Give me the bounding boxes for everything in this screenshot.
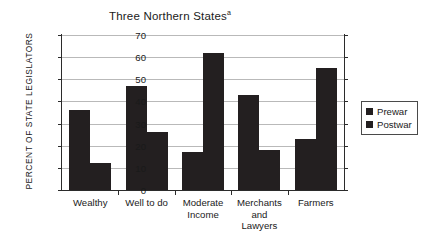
y-axis-title: PERCENT OF STATE LEGISLATORS [24, 26, 34, 196]
category-label: MerchantsandLawyers [231, 197, 287, 232]
chart-title-text: Three Northern States [109, 10, 227, 22]
legend-label: Postwar [377, 119, 412, 130]
category-separator [175, 190, 176, 195]
category-label-line: and [231, 209, 287, 221]
chart-title-superscript: a [227, 9, 231, 16]
category-label-line: Merchants [231, 197, 287, 209]
y-axis-tick-label: 50 [124, 74, 146, 85]
category-separator [288, 190, 289, 195]
bar-prewar [182, 152, 203, 190]
bar-group [69, 35, 111, 190]
legend-item[interactable]: Postwar [366, 118, 412, 131]
bar-group [238, 35, 280, 190]
y-axis-tick-label: 30 [124, 118, 146, 129]
y-axis-tick-label: 40 [124, 96, 146, 107]
y-axis-tick-right [344, 57, 348, 58]
category-separator [118, 190, 119, 195]
category-label: Wealthy [62, 197, 118, 209]
category-label-line: Moderate [175, 197, 231, 209]
category-label-line: Farmers [288, 197, 344, 209]
bar-postwar [147, 132, 168, 190]
y-axis-tick-right [344, 79, 348, 80]
category-separator [231, 190, 232, 195]
bar-chart-figure: Three Northern Statesa PERCENT OF STATE … [0, 0, 436, 250]
bar-group [295, 35, 337, 190]
legend-swatch-icon [366, 108, 373, 115]
y-axis-tick [58, 190, 62, 191]
category-label: Well to do [118, 197, 174, 209]
bar-prewar [238, 95, 259, 190]
bar-postwar [316, 68, 337, 190]
category-label-line: Wealthy [62, 197, 118, 209]
x-axis-baseline [61, 190, 345, 191]
y-axis-tick-right [344, 146, 348, 147]
bar-postwar [90, 163, 111, 190]
y-axis-tick-label: 20 [124, 140, 146, 151]
category-label: Farmers [288, 197, 344, 209]
category-label-line: Well to do [118, 197, 174, 209]
plot-area [62, 35, 344, 190]
legend-item[interactable]: Prewar [366, 105, 412, 118]
y-axis-tick-label: 60 [124, 52, 146, 63]
category-label-line: Lawyers [231, 220, 287, 232]
bar-series-container [62, 35, 344, 190]
bar-prewar [295, 139, 316, 190]
chart-title: Three Northern Statesa [0, 9, 340, 22]
bar-group [182, 35, 224, 190]
legend-swatch-icon [366, 121, 373, 128]
bar-postwar [203, 53, 224, 190]
y-axis-tick-right [344, 101, 348, 102]
y-axis-tick-right [344, 190, 348, 191]
y-axis-tick-label: 0 [124, 185, 146, 196]
y-axis-tick-right [344, 168, 348, 169]
category-label-line: Income [175, 209, 231, 221]
y-axis-tick-label: 10 [124, 162, 146, 173]
y-axis-tick-right [344, 35, 348, 36]
y-axis-tick-right [344, 124, 348, 125]
bar-postwar [259, 150, 280, 190]
category-label: ModerateIncome [175, 197, 231, 220]
legend-label: Prewar [377, 106, 407, 117]
chart-legend: PrewarPostwar [361, 101, 418, 135]
y-axis-tick-label: 70 [124, 30, 146, 41]
bar-prewar [69, 110, 90, 190]
